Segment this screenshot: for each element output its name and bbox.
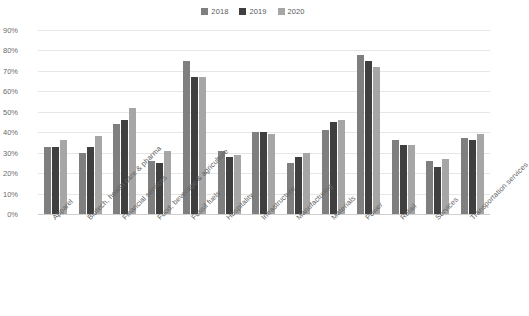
- y-axis-tick-label: 50%: [0, 109, 18, 117]
- bar-2018: [426, 161, 433, 214]
- bar-group: [420, 30, 455, 214]
- bar-2018: [322, 130, 329, 214]
- bar-2019: [400, 145, 407, 215]
- legend-item-2020: 2020: [278, 8, 305, 16]
- legend-swatch-icon: [239, 8, 246, 15]
- bar-group: [247, 30, 282, 214]
- bar-2019: [330, 122, 337, 214]
- bar-2019: [52, 147, 59, 214]
- bar-group: [38, 30, 73, 214]
- bar-2019: [365, 61, 372, 214]
- bar-2019: [121, 120, 128, 214]
- x-axis-tick-labels: ApparelBiotech, health care & pharmaFina…: [38, 216, 490, 312]
- y-axis-tick-label: 0%: [0, 211, 18, 219]
- bar-2019: [191, 77, 198, 214]
- bar-2019: [295, 157, 302, 214]
- legend-label: 2020: [288, 8, 305, 16]
- bar-2018: [44, 147, 51, 214]
- legend-swatch-icon: [278, 8, 285, 15]
- bar-2018: [461, 138, 468, 214]
- y-axis-tick-label: 60%: [0, 88, 18, 96]
- y-axis-tick-label: 80%: [0, 47, 18, 55]
- bar-2018: [252, 132, 259, 214]
- legend-label: 2018: [211, 8, 228, 16]
- legend-swatch-icon: [201, 8, 208, 15]
- chart-legend: 201820192020: [0, 8, 506, 16]
- plot-area: 0%10%20%30%40%50%60%70%80%90%: [38, 30, 490, 214]
- bar-2018: [357, 55, 364, 214]
- bar-2020: [373, 67, 380, 214]
- bar-2019: [469, 140, 476, 214]
- bar-2019: [87, 147, 94, 214]
- legend-item-2018: 2018: [201, 8, 228, 16]
- bar-groups: [38, 30, 490, 214]
- bar-group: [73, 30, 108, 214]
- y-axis-tick-label: 20%: [0, 170, 18, 178]
- y-axis-tick-label: 40%: [0, 129, 18, 137]
- y-axis-tick-label: 70%: [0, 68, 18, 76]
- bar-2019: [260, 132, 267, 214]
- legend-label: 2019: [249, 8, 266, 16]
- bar-group: [455, 30, 490, 214]
- y-axis-tick-label: 90%: [0, 27, 18, 35]
- legend-item-2019: 2019: [239, 8, 266, 16]
- bar-group: [386, 30, 421, 214]
- y-axis-tick-label: 30%: [0, 150, 18, 158]
- bar-2018: [113, 124, 120, 214]
- bar-2020: [199, 77, 206, 214]
- y-axis-tick-label: 10%: [0, 191, 18, 199]
- bar-2020: [129, 108, 136, 214]
- bar-group: [351, 30, 386, 214]
- bar-2019: [226, 157, 233, 214]
- bar-2018: [392, 140, 399, 214]
- bar-2018: [79, 153, 86, 214]
- bar-group: [212, 30, 247, 214]
